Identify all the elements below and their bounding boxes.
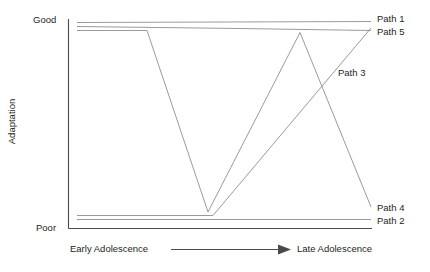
chart-plot-area <box>0 0 430 272</box>
series-label-path-1: Path 1 <box>377 14 404 24</box>
x-label-late-adolescence: Late Adolescence <box>297 244 372 254</box>
adaptation-pathways-chart: Adaptation Good Poor Early Adolescence L… <box>0 0 430 272</box>
series-label-path-3: Path 3 <box>338 68 365 78</box>
y-axis-title: Adaptation <box>6 87 17 157</box>
series-label-path-2: Path 2 <box>377 216 404 226</box>
series-line-path-1 <box>77 22 371 23</box>
x-direction-arrow-head <box>278 245 291 255</box>
series-label-path-4: Path 4 <box>377 203 404 213</box>
series-line-path-4 <box>77 31 371 213</box>
y-tick-label-poor: Poor <box>36 223 56 233</box>
series-label-path-5: Path 5 <box>377 27 404 37</box>
x-label-early-adolescence: Early Adolescence <box>70 244 148 254</box>
series-line-path-5 <box>77 27 371 31</box>
series-line-path-3 <box>77 28 371 216</box>
y-tick-label-good: Good <box>33 15 56 25</box>
